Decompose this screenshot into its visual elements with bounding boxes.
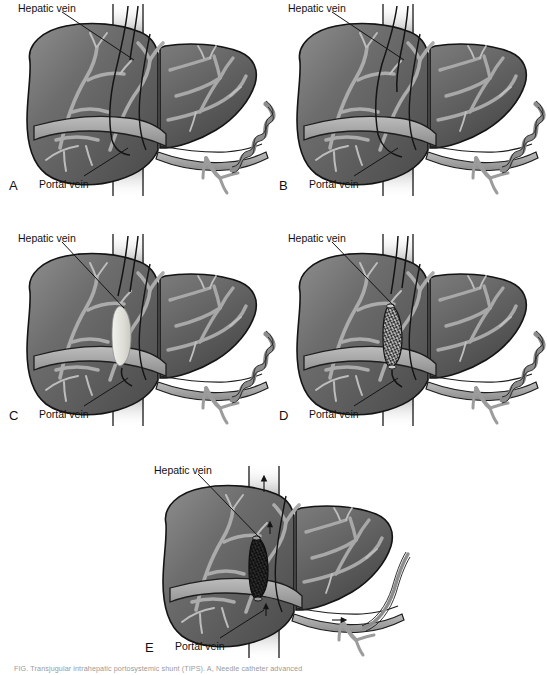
portal-vein-label: Portal vein — [309, 178, 359, 190]
tips-procedure-figure: Hepatic vein Portal vein A — [0, 0, 547, 675]
portal-vein-label: Portal vein — [175, 640, 225, 652]
portal-vein-trunk — [292, 606, 404, 655]
hepatic-vein-label: Hepatic vein — [154, 464, 212, 476]
panel-c-illustration: Hepatic vein Portal vein — [0, 230, 277, 445]
hepatic-vein-label: Hepatic vein — [288, 2, 346, 14]
portal-vein-label: Portal vein — [39, 178, 89, 190]
panel-e: Hepatic vein Portal vein E — [136, 462, 413, 675]
liver-organ — [297, 24, 526, 185]
panel-a: Hepatic vein Portal vein A — [0, 0, 277, 215]
panel-c: Hepatic vein Portal vein C — [0, 230, 277, 445]
panel-letter-b: B — [279, 178, 288, 193]
figure-caption: FIG. Transjugular intrahepatic portosyst… — [14, 664, 534, 675]
panel-d-illustration: Hepatic vein Portal vein — [270, 230, 547, 445]
panel-letter-e: E — [145, 640, 154, 655]
panel-d: Hepatic vein Portal vein D — [270, 230, 547, 445]
liver-organ — [163, 486, 392, 647]
hepatic-vein-label: Hepatic vein — [18, 232, 76, 244]
dilated-tract-balloon — [112, 306, 131, 366]
panel-letter-a: A — [9, 178, 18, 193]
liver-organ — [297, 254, 526, 415]
liver-organ — [27, 254, 256, 415]
liver-organ — [27, 24, 256, 185]
hepatic-vein-label: Hepatic vein — [18, 2, 76, 14]
panel-letter-d: D — [279, 408, 289, 423]
panel-a-illustration: Hepatic vein Portal vein — [0, 0, 277, 215]
portal-vein-label: Portal vein — [309, 408, 359, 420]
panel-letter-c: C — [9, 408, 19, 423]
panel-b-illustration: Hepatic vein Portal vein — [270, 0, 547, 215]
hepatic-vein-label: Hepatic vein — [288, 232, 346, 244]
panel-b: Hepatic vein Portal vein B — [270, 0, 547, 215]
panel-e-illustration: Hepatic vein Portal vein — [136, 462, 413, 675]
portal-vein-label: Portal vein — [39, 408, 89, 420]
